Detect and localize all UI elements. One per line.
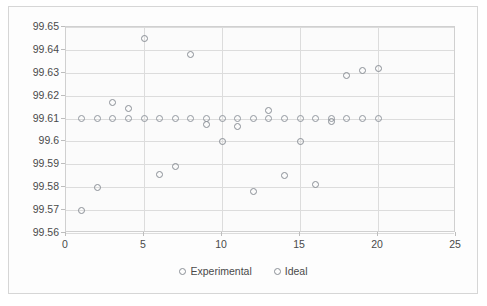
data-point-marker <box>219 138 226 145</box>
y-axis-tick-label: 99.57 <box>33 204 59 215</box>
legend-label-ideal: Ideal <box>285 265 308 277</box>
gridline-horizontal <box>66 164 454 165</box>
y-axis-tickmark <box>61 118 65 119</box>
x-axis-tick-label: 10 <box>206 239 236 250</box>
gridline-horizontal <box>66 187 454 188</box>
legend-entry-ideal[interactable]: Ideal <box>274 265 308 277</box>
x-axis-tick-label: 15 <box>284 239 314 250</box>
x-axis-tick-label: 0 <box>50 239 80 250</box>
x-axis-tickmark <box>143 232 144 236</box>
data-point-marker <box>281 115 288 122</box>
y-axis-labels: 99.6599.6499.6399.6299.6199.699.5999.589… <box>0 0 59 306</box>
data-point-marker <box>297 138 304 145</box>
legend-label-experimental: Experimental <box>190 265 251 277</box>
data-point-marker <box>109 115 116 122</box>
data-point-marker <box>359 67 366 74</box>
y-axis-tick-label: 99.58 <box>33 181 59 192</box>
gridline-horizontal <box>66 233 454 234</box>
data-point-marker <box>94 184 101 191</box>
gridline-vertical <box>222 27 223 231</box>
gridline-horizontal <box>66 141 454 142</box>
y-axis-tickmark <box>61 72 65 73</box>
y-axis-tick-label: 99.64 <box>33 44 59 55</box>
x-axis-labels: 0510152025 <box>0 239 487 255</box>
x-axis-tickmark <box>377 232 378 236</box>
gridline-horizontal <box>66 210 454 211</box>
legend-entry-experimental[interactable]: Experimental <box>179 265 251 277</box>
y-axis-tick-label: 99.59 <box>33 158 59 169</box>
data-point-marker <box>312 115 319 122</box>
data-point-marker <box>343 72 350 79</box>
x-axis-tickmark <box>221 232 222 236</box>
data-point-marker <box>78 207 85 214</box>
x-axis-tickmark <box>455 232 456 236</box>
data-point-marker <box>250 188 257 195</box>
y-axis-tickmark <box>61 209 65 210</box>
y-axis-tickmark <box>61 140 65 141</box>
data-point-marker <box>172 115 179 122</box>
data-point-marker <box>172 163 179 170</box>
chart-legend: Experimental Ideal <box>0 262 487 280</box>
x-axis-tick-label: 25 <box>440 239 470 250</box>
x-axis-tick-label: 5 <box>128 239 158 250</box>
data-point-marker <box>156 171 163 178</box>
data-point-marker <box>265 107 272 114</box>
data-point-marker <box>359 115 366 122</box>
x-axis-tickmark <box>65 232 66 236</box>
data-point-marker <box>219 115 226 122</box>
gridline-horizontal <box>66 50 454 51</box>
data-point-marker <box>281 172 288 179</box>
gridline-vertical <box>378 27 379 231</box>
data-point-marker <box>328 118 335 125</box>
chart-screenshot: 99.6599.6499.6399.6299.6199.699.5999.589… <box>0 0 487 306</box>
data-point-marker <box>234 115 241 122</box>
data-point-marker <box>187 115 194 122</box>
data-point-marker <box>375 65 382 72</box>
y-axis-tick-label: 99.65 <box>33 21 59 32</box>
x-axis-tickmark <box>299 232 300 236</box>
data-point-marker <box>234 123 241 130</box>
y-axis-tickmark <box>61 26 65 27</box>
data-point-marker <box>78 115 85 122</box>
y-axis-tick-label: 99.6 <box>39 135 59 146</box>
y-axis-tickmark <box>61 163 65 164</box>
gridline-vertical <box>144 27 145 231</box>
y-axis-tickmark <box>61 95 65 96</box>
open-circle-icon <box>179 268 186 275</box>
data-point-marker <box>203 121 210 128</box>
data-point-marker <box>109 99 116 106</box>
y-axis-tick-label: 99.63 <box>33 67 59 78</box>
data-point-marker <box>250 115 257 122</box>
gridline-horizontal <box>66 96 454 97</box>
y-axis-tick-label: 99.62 <box>33 90 59 101</box>
y-axis-tick-label: 99.56 <box>33 227 59 238</box>
y-axis-tickmark <box>61 186 65 187</box>
data-point-marker <box>125 105 132 112</box>
open-circle-icon <box>274 268 281 275</box>
y-axis-tickmark <box>61 49 65 50</box>
plot-area <box>65 26 455 232</box>
y-axis-tick-label: 99.61 <box>33 113 59 124</box>
data-point-marker <box>141 115 148 122</box>
data-point-marker <box>297 115 304 122</box>
data-point-marker <box>156 115 163 122</box>
data-point-marker <box>187 51 194 58</box>
data-point-marker <box>343 115 350 122</box>
data-point-marker <box>141 35 148 42</box>
data-point-marker <box>125 115 132 122</box>
x-axis-tick-label: 20 <box>362 239 392 250</box>
gridline-horizontal <box>66 73 454 74</box>
data-point-marker <box>375 115 382 122</box>
gridline-horizontal <box>66 27 454 28</box>
data-point-marker <box>265 115 272 122</box>
gridline-vertical <box>300 27 301 231</box>
data-point-marker <box>94 115 101 122</box>
